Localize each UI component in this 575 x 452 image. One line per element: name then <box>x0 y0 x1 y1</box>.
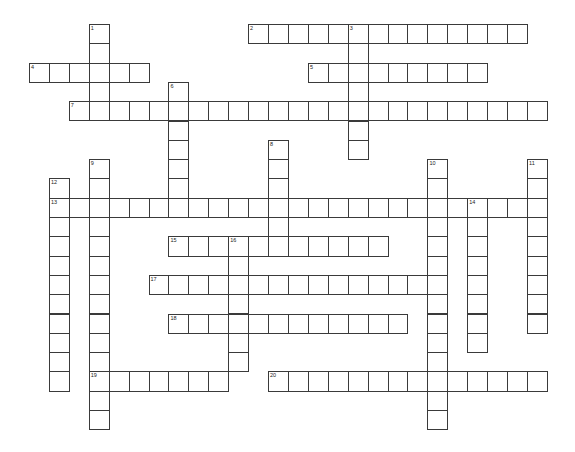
crossword-cell[interactable] <box>467 314 488 334</box>
crossword-cell[interactable] <box>527 236 548 256</box>
crossword-cell[interactable] <box>228 256 249 276</box>
crossword-cell[interactable] <box>109 198 130 218</box>
crossword-cell[interactable] <box>388 198 409 218</box>
crossword-cell[interactable] <box>268 101 289 121</box>
crossword-cell[interactable] <box>308 198 329 218</box>
crossword-cell[interactable]: 16 <box>228 236 249 256</box>
crossword-cell[interactable] <box>168 101 189 121</box>
crossword-cell[interactable] <box>348 314 369 334</box>
crossword-cell[interactable] <box>268 24 289 44</box>
crossword-cell[interactable] <box>487 101 508 121</box>
crossword-cell[interactable] <box>208 101 229 121</box>
crossword-cell[interactable] <box>149 198 170 218</box>
crossword-cell[interactable]: 15 <box>168 236 189 256</box>
crossword-cell[interactable] <box>427 314 448 334</box>
crossword-cell[interactable] <box>368 198 389 218</box>
crossword-cell[interactable] <box>288 198 309 218</box>
crossword-cell[interactable] <box>308 101 329 121</box>
crossword-cell[interactable] <box>89 410 110 430</box>
crossword-cell[interactable] <box>129 371 150 391</box>
crossword-cell[interactable] <box>129 198 150 218</box>
crossword-cell[interactable] <box>427 410 448 430</box>
crossword-cell[interactable] <box>288 24 309 44</box>
crossword-cell[interactable] <box>407 275 428 295</box>
crossword-cell[interactable] <box>427 275 448 295</box>
crossword-cell[interactable] <box>49 275 70 295</box>
crossword-cell[interactable] <box>467 217 488 237</box>
crossword-cell[interactable]: 3 <box>348 24 369 44</box>
crossword-cell[interactable] <box>248 198 269 218</box>
crossword-cell[interactable] <box>89 352 110 372</box>
crossword-cell[interactable]: 18 <box>168 314 189 334</box>
crossword-cell[interactable] <box>427 294 448 314</box>
crossword-cell[interactable] <box>447 371 468 391</box>
crossword-cell[interactable] <box>527 101 548 121</box>
crossword-cell[interactable] <box>427 63 448 83</box>
crossword-cell[interactable] <box>507 371 528 391</box>
crossword-cell[interactable] <box>467 333 488 353</box>
crossword-cell[interactable]: 10 <box>427 159 448 179</box>
crossword-cell[interactable]: 4 <box>29 63 50 83</box>
crossword-cell[interactable] <box>527 371 548 391</box>
crossword-cell[interactable] <box>368 371 389 391</box>
crossword-cell[interactable] <box>388 24 409 44</box>
crossword-cell[interactable] <box>427 198 448 218</box>
crossword-cell[interactable] <box>467 63 488 83</box>
crossword-cell[interactable] <box>407 371 428 391</box>
crossword-cell[interactable] <box>268 314 289 334</box>
crossword-cell[interactable] <box>89 236 110 256</box>
crossword-cell[interactable] <box>248 236 269 256</box>
crossword-cell[interactable] <box>328 101 349 121</box>
crossword-cell[interactable] <box>507 101 528 121</box>
crossword-cell[interactable] <box>248 101 269 121</box>
crossword-cell[interactable]: 20 <box>268 371 289 391</box>
crossword-cell[interactable] <box>208 236 229 256</box>
crossword-cell[interactable] <box>467 371 488 391</box>
crossword-cell[interactable] <box>467 275 488 295</box>
crossword-cell[interactable] <box>149 371 170 391</box>
crossword-cell[interactable] <box>89 82 110 102</box>
crossword-cell[interactable] <box>208 275 229 295</box>
crossword-cell[interactable] <box>527 275 548 295</box>
crossword-cell[interactable] <box>109 371 130 391</box>
crossword-cell[interactable] <box>328 314 349 334</box>
crossword-cell[interactable] <box>427 178 448 198</box>
crossword-cell[interactable] <box>188 101 209 121</box>
crossword-cell[interactable] <box>328 24 349 44</box>
crossword-cell[interactable] <box>49 294 70 314</box>
crossword-cell[interactable] <box>89 101 110 121</box>
crossword-cell[interactable] <box>308 236 329 256</box>
crossword-cell[interactable]: 1 <box>89 24 110 44</box>
crossword-cell[interactable] <box>268 198 289 218</box>
crossword-cell[interactable] <box>208 314 229 334</box>
crossword-cell[interactable] <box>49 236 70 256</box>
crossword-cell[interactable] <box>467 294 488 314</box>
crossword-cell[interactable] <box>308 275 329 295</box>
crossword-cell[interactable] <box>507 24 528 44</box>
crossword-cell[interactable] <box>348 275 369 295</box>
crossword-cell[interactable] <box>268 178 289 198</box>
crossword-cell[interactable] <box>348 236 369 256</box>
crossword-cell[interactable] <box>487 24 508 44</box>
crossword-cell[interactable] <box>527 217 548 237</box>
crossword-cell[interactable] <box>447 24 468 44</box>
crossword-cell[interactable] <box>168 121 189 141</box>
crossword-cell[interactable] <box>467 236 488 256</box>
crossword-cell[interactable] <box>228 198 249 218</box>
crossword-cell[interactable] <box>308 371 329 391</box>
crossword-cell[interactable] <box>288 371 309 391</box>
crossword-cell[interactable] <box>407 24 428 44</box>
crossword-cell[interactable] <box>467 256 488 276</box>
crossword-cell[interactable] <box>427 236 448 256</box>
crossword-cell[interactable] <box>388 314 409 334</box>
crossword-cell[interactable] <box>288 314 309 334</box>
crossword-cell[interactable] <box>447 63 468 83</box>
crossword-cell[interactable] <box>407 63 428 83</box>
crossword-cell[interactable] <box>168 178 189 198</box>
crossword-cell[interactable] <box>89 391 110 411</box>
crossword-cell[interactable] <box>427 217 448 237</box>
crossword-cell[interactable] <box>328 63 349 83</box>
crossword-cell[interactable] <box>348 82 369 102</box>
crossword-cell[interactable] <box>49 352 70 372</box>
crossword-cell[interactable] <box>188 236 209 256</box>
